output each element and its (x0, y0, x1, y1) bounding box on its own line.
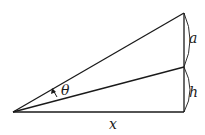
upper-hypotenuse (13, 13, 184, 112)
label-h: h (189, 84, 198, 100)
label-a: a (189, 30, 197, 46)
label-x: x (109, 116, 117, 132)
lower-hypotenuse (13, 67, 184, 112)
label-theta: θ (61, 82, 70, 98)
triangle-diagram: θ a h x (0, 0, 205, 135)
